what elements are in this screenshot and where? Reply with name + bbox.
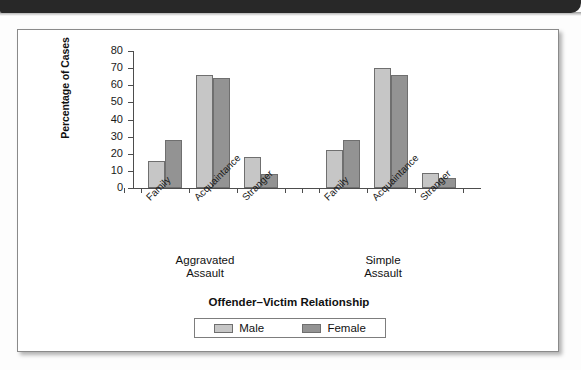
x-tick-mark (285, 188, 286, 193)
y-tick-label: 0 (87, 182, 123, 193)
y-tick-label: 50 (87, 96, 123, 107)
y-tick-label: 80 (87, 45, 123, 56)
y-tick-mark (128, 137, 133, 138)
x-tick-mark (141, 188, 142, 193)
group-label-line1: Aggravated (145, 254, 265, 267)
y-tick-mark (128, 51, 133, 52)
legend-label-male: Male (239, 322, 264, 334)
x-tick-mark (237, 188, 238, 193)
y-tick-label: 30 (87, 131, 123, 142)
x-tick-mark (463, 188, 464, 193)
bar-chart: Percentage of Cases 01020304050607080 Fa… (18, 30, 560, 353)
legend-label-female: Female (327, 322, 365, 334)
group-label-line2: Assault (323, 267, 443, 280)
group-label-line2: Assault (145, 267, 265, 280)
legend-item-male: Male (214, 322, 264, 334)
x-tick-mark (189, 188, 190, 193)
x-tick-mark (302, 188, 303, 193)
y-tick-mark (128, 68, 133, 69)
y-tick-mark (128, 102, 133, 103)
x-tick-mark (124, 188, 125, 193)
chart-legend: Male Female (194, 318, 386, 338)
y-tick-label: 70 (87, 62, 123, 73)
page-header-shadow (0, 12, 581, 16)
group-label: AggravatedAssault (145, 254, 265, 280)
y-tick-mark (128, 154, 133, 155)
x-tick-mark (319, 188, 320, 193)
y-tick-label: 10 (87, 165, 123, 176)
y-tick-mark (128, 188, 133, 189)
legend-swatch-male-icon (214, 324, 233, 333)
legend-item-female: Female (302, 322, 365, 334)
x-axis-title: Offender–Victim Relationship (18, 296, 560, 308)
group-label: SimpleAssault (323, 254, 443, 280)
legend-swatch-female-icon (302, 324, 321, 333)
group-label-line1: Simple (323, 254, 443, 267)
y-tick-label: 60 (87, 79, 123, 90)
y-tick-mark (128, 85, 133, 86)
bar-male-acquaintance (374, 68, 391, 188)
y-tick-label: 40 (87, 114, 123, 125)
figure-container: Percentage of Cases 01020304050607080 Fa… (17, 29, 559, 352)
plot-area (134, 51, 481, 188)
y-tick-label: 20 (87, 148, 123, 159)
y-tick-mark (128, 120, 133, 121)
y-tick-mark (128, 171, 133, 172)
bar-male-acquaintance (196, 75, 213, 188)
x-tick-mark (367, 188, 368, 193)
x-tick-mark (415, 188, 416, 193)
y-axis-title: Percentage of Cases (59, 23, 71, 153)
